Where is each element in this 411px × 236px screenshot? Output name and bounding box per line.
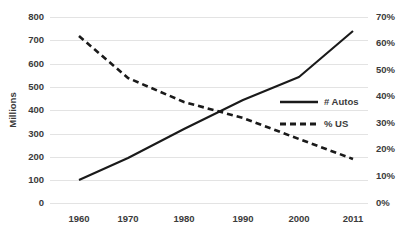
x-tick-label: 1970	[117, 213, 138, 224]
y2-tick-label: 50%	[376, 64, 396, 75]
x-tick-label: 2011	[343, 213, 364, 224]
y-tick-label: 200	[28, 151, 44, 162]
y-tick-label: 300	[28, 128, 44, 139]
y2-tick-label: 10%	[376, 170, 396, 181]
y-tick-label: 0	[39, 197, 44, 208]
series-line-percent-us	[79, 36, 353, 159]
y-tick-label: 400	[28, 104, 44, 115]
y-tick-label: 600	[28, 58, 44, 69]
legend-label-percent-us: % US	[324, 118, 348, 129]
y-axis-right-labels: 70% 60% 50% 40% 30% 20% 10% 0%	[376, 11, 396, 208]
legend-label-autos: # Autos	[324, 96, 358, 107]
legend: # Autos % US	[280, 96, 358, 129]
y-tick-label: 800	[28, 11, 44, 22]
x-tick-label: 1980	[173, 213, 194, 224]
y2-tick-label: 20%	[376, 143, 396, 154]
series-line-autos	[79, 31, 353, 180]
y-tick-label: 500	[28, 81, 44, 92]
y2-tick-label: 0%	[376, 197, 390, 208]
y2-tick-label: 70%	[376, 11, 396, 22]
y-tick-label: 700	[28, 34, 44, 45]
x-tick-label: 1960	[68, 213, 89, 224]
chart-container: 800 700 600 500 400 300 200 100 0 70% 60…	[0, 0, 411, 236]
line-chart: 800 700 600 500 400 300 200 100 0 70% 60…	[0, 0, 411, 236]
y-axis-title: Millions	[7, 92, 18, 127]
y2-tick-label: 30%	[376, 117, 396, 128]
y-axis-left-labels: 800 700 600 500 400 300 200 100 0	[28, 11, 44, 208]
y2-tick-label: 60%	[376, 37, 396, 48]
x-axis-labels: 1960 1970 1980 1990 2000 2011	[68, 213, 364, 224]
x-tick-label: 1990	[232, 213, 253, 224]
y-tick-label: 100	[28, 174, 44, 185]
y2-tick-label: 40%	[376, 90, 396, 101]
x-tick-label: 2000	[288, 213, 309, 224]
